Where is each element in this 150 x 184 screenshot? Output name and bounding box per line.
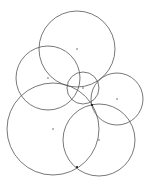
center-dot-lower-left-large — [52, 128, 53, 129]
intersection-point-0 — [91, 104, 93, 106]
center-dot-small-center — [82, 87, 83, 88]
center-dot-top — [76, 48, 77, 49]
circles-layer — [7, 11, 143, 176]
circle-diagram — [0, 0, 150, 184]
intersection-point-1 — [76, 166, 78, 168]
center-dots-layer — [47, 48, 117, 140]
center-dot-lower-right — [98, 139, 99, 140]
center-dot-right — [116, 98, 117, 99]
circle-diagram-svg — [0, 0, 150, 184]
intersection-points-layer — [76, 104, 93, 168]
center-dot-upper-left — [47, 77, 48, 78]
